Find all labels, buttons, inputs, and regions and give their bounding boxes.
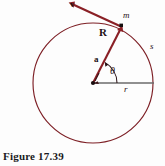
arc-length-label: s bbox=[150, 42, 154, 51]
mass-point-marker bbox=[119, 24, 123, 27]
angle-label: θ bbox=[110, 66, 115, 76]
circle-center-dot bbox=[91, 81, 95, 85]
velocity-label: v bbox=[70, 0, 75, 9]
position-vector-label: R bbox=[99, 27, 107, 38]
physics-diagram-circular-motion bbox=[0, 0, 165, 166]
figure-container: v m R s a θ r Figure 17.39 bbox=[0, 0, 165, 166]
acceleration-label: a bbox=[94, 55, 99, 64]
radius-label: r bbox=[124, 85, 128, 94]
figure-caption: Figure 17.39 bbox=[3, 150, 64, 162]
mass-label: m bbox=[123, 11, 130, 20]
